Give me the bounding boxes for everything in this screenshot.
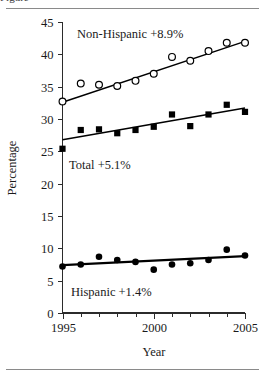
- data-point-non-hispanic: [114, 83, 121, 90]
- figure-container: Figure Percentage Year 05101520253035404…: [0, 0, 265, 375]
- y-tick-label: 45: [41, 16, 54, 30]
- y-tick-label: 30: [41, 113, 54, 127]
- data-point-hispanic: [242, 252, 249, 259]
- data-point-non-hispanic: [223, 39, 230, 46]
- data-point-hispanic: [150, 266, 157, 273]
- data-point-total: [187, 123, 193, 129]
- x-tick-label: 1995: [51, 321, 76, 335]
- data-point-non-hispanic: [187, 57, 194, 64]
- x-axis-tick-labels: 199520002005: [51, 321, 258, 335]
- data-point-total: [59, 146, 65, 152]
- data-point-hispanic: [96, 253, 103, 260]
- data-point-non-hispanic: [242, 39, 249, 46]
- data-points: [59, 39, 248, 273]
- data-point-hispanic: [59, 263, 66, 270]
- data-point-non-hispanic: [96, 81, 103, 88]
- data-point-hispanic: [77, 261, 84, 268]
- x-tick-label: 2005: [233, 321, 258, 335]
- series-annotation-non-hispanic: Non-Hispanic +8.9%: [77, 27, 183, 41]
- series-annotation-hispanic: Hispanic +1.4%: [71, 285, 152, 299]
- data-point-total: [205, 111, 211, 117]
- data-point-total: [169, 111, 175, 117]
- y-tick-label: 15: [41, 210, 54, 224]
- data-point-total: [242, 109, 248, 115]
- y-tick-label: 10: [41, 242, 54, 256]
- data-point-total: [132, 127, 138, 133]
- data-point-non-hispanic: [205, 48, 212, 55]
- y-tick-label: 25: [41, 145, 54, 159]
- cut-off-caption-above: Figure: [0, 0, 265, 7]
- y-tick-label: 20: [41, 178, 54, 192]
- y-axis-ticks: [58, 23, 63, 314]
- data-point-total: [78, 127, 84, 133]
- data-point-hispanic: [205, 257, 212, 264]
- data-point-non-hispanic: [150, 70, 157, 77]
- figure-rule-top: [6, 8, 259, 9]
- scatter-chart: Percentage Year 051015202530354045 19952…: [0, 0, 265, 375]
- x-tick-label: 2000: [142, 321, 167, 335]
- y-tick-label: 40: [41, 48, 54, 62]
- data-point-total: [114, 130, 120, 136]
- y-axis-tick-labels: 051015202530354045: [41, 16, 54, 321]
- trend-line-hispanic: [63, 256, 246, 265]
- cut-off-caption-text: Figure: [0, 0, 29, 3]
- data-point-non-hispanic: [59, 98, 66, 105]
- data-point-hispanic: [114, 257, 121, 264]
- data-point-non-hispanic: [77, 80, 84, 87]
- data-point-hispanic: [187, 260, 194, 267]
- y-axis-title: Percentage: [5, 140, 19, 195]
- data-point-hispanic: [223, 246, 230, 253]
- figure-rule-bottom: [6, 369, 259, 370]
- y-tick-label: 0: [47, 307, 53, 321]
- data-point-total: [96, 126, 102, 132]
- data-point-total: [151, 124, 157, 130]
- data-point-non-hispanic: [169, 54, 176, 61]
- y-tick-label: 5: [47, 275, 53, 289]
- x-axis-title: Year: [142, 345, 166, 359]
- data-point-non-hispanic: [132, 77, 139, 84]
- data-point-total: [224, 102, 230, 108]
- data-point-hispanic: [132, 259, 139, 266]
- x-axis-ticks: [64, 313, 246, 319]
- series-annotation-total: Total +5.1%: [69, 158, 131, 172]
- data-point-hispanic: [169, 261, 176, 268]
- y-tick-label: 35: [41, 81, 54, 95]
